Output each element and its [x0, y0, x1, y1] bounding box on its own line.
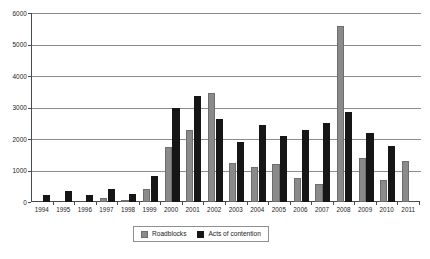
bar-roadblocks [208, 93, 215, 202]
bar-group [75, 13, 97, 202]
bar-group [118, 13, 140, 202]
bar-group [248, 13, 270, 202]
bar-roadblocks [186, 130, 193, 202]
bar-roadblocks [251, 167, 258, 202]
bar-chart: 0100020003000400050006000 19941995199619… [0, 0, 430, 259]
bar-roadblocks [294, 178, 301, 202]
bar-acts-of-contention [280, 136, 287, 202]
x-tick-label: 2009 [354, 206, 376, 214]
x-tick-label: 2008 [333, 206, 355, 214]
x-tick-label: 2005 [268, 206, 290, 214]
x-tick-mark [247, 202, 248, 205]
x-tick-mark [160, 202, 161, 205]
x-tick-label: 1995 [53, 206, 75, 214]
bar-acts-of-contention [345, 112, 352, 202]
y-tick-label: 2000 [0, 136, 27, 143]
bar-group [97, 13, 119, 202]
bar-group [204, 13, 226, 202]
bar-group [269, 13, 291, 202]
x-tick-mark [311, 202, 312, 205]
bar-acts-of-contention [129, 194, 136, 202]
bar-acts-of-contention [388, 146, 395, 202]
x-tick-label: 1999 [139, 206, 161, 214]
bar-roadblocks [121, 200, 128, 202]
x-tick-label: 1998 [117, 206, 139, 214]
y-tick-label: 3000 [0, 104, 27, 111]
bar-roadblocks [337, 26, 344, 202]
legend-entry-acts-of-contention: Acts of contention [197, 230, 260, 238]
x-tick-label: 2001 [182, 206, 204, 214]
legend-label-roadblocks: Roadblocks [152, 230, 186, 238]
bar-group [334, 13, 356, 202]
bar-group [54, 13, 76, 202]
x-tick-mark [53, 202, 54, 205]
bar-group [291, 13, 313, 202]
x-tick-label: 2003 [225, 206, 247, 214]
bar-roadblocks [229, 163, 236, 202]
x-tick-mark [354, 202, 355, 205]
x-tick-mark [333, 202, 334, 205]
y-tick-mark [28, 139, 31, 140]
x-tick-mark [139, 202, 140, 205]
x-tick-label: 2004 [247, 206, 269, 214]
y-tick-mark [28, 108, 31, 109]
bar-group [140, 13, 162, 202]
bar-group [183, 13, 205, 202]
bar-roadblocks [143, 189, 150, 202]
x-tick-mark [376, 202, 377, 205]
bar-acts-of-contention [216, 119, 223, 202]
x-tick-label: 2007 [311, 206, 333, 214]
x-tick-label: 2002 [203, 206, 225, 214]
x-tick-mark [96, 202, 97, 205]
y-tick-mark [28, 171, 31, 172]
y-tick-mark [28, 202, 31, 203]
x-tick-mark [419, 202, 420, 205]
bar-acts-of-contention [259, 125, 266, 202]
bar-acts-of-contention [194, 96, 201, 202]
x-tick-label: 2010 [376, 206, 398, 214]
y-tick-mark [28, 76, 31, 77]
bar-roadblocks [402, 161, 409, 202]
bar-group [226, 13, 248, 202]
bar-group [161, 13, 183, 202]
x-tick-mark [290, 202, 291, 205]
bar-group [32, 13, 54, 202]
bar-group [312, 13, 334, 202]
chart-legend: Roadblocks Acts of contention [133, 226, 269, 242]
y-tick-label: 4000 [0, 73, 27, 80]
bar-group [377, 13, 399, 202]
bar-acts-of-contention [323, 123, 330, 202]
bars-layer [32, 13, 420, 202]
bar-roadblocks [272, 164, 279, 202]
bar-acts-of-contention [151, 176, 158, 202]
x-tick-label: 2000 [160, 206, 182, 214]
x-tick-label: 1996 [74, 206, 96, 214]
legend-entry-roadblocks: Roadblocks [141, 230, 186, 238]
bar-acts-of-contention [43, 195, 50, 202]
x-tick-mark [117, 202, 118, 205]
x-tick-label: 2011 [397, 206, 419, 214]
black-square-swatch-icon [197, 231, 204, 238]
x-tick-mark [203, 202, 204, 205]
bar-acts-of-contention [65, 191, 72, 202]
x-tick-label: 1994 [31, 206, 53, 214]
y-tick-label: 0 [0, 199, 27, 206]
legend-label-acts-of-contention: Acts of contention [208, 230, 260, 238]
bar-roadblocks [380, 180, 387, 202]
bar-roadblocks [100, 198, 107, 202]
y-tick-mark [28, 45, 31, 46]
bar-roadblocks [165, 147, 172, 202]
x-tick-label: 2006 [290, 206, 312, 214]
bar-acts-of-contention [86, 195, 93, 202]
x-tick-label: 1997 [96, 206, 118, 214]
x-tick-mark [225, 202, 226, 205]
bar-group [355, 13, 377, 202]
bar-roadblocks [315, 184, 322, 202]
bar-acts-of-contention [237, 142, 244, 202]
y-tick-mark [28, 13, 31, 14]
y-tick-label: 5000 [0, 41, 27, 48]
y-tick-label: 1000 [0, 167, 27, 174]
bar-acts-of-contention [172, 108, 179, 203]
x-tick-mark [397, 202, 398, 205]
bar-acts-of-contention [108, 189, 115, 202]
